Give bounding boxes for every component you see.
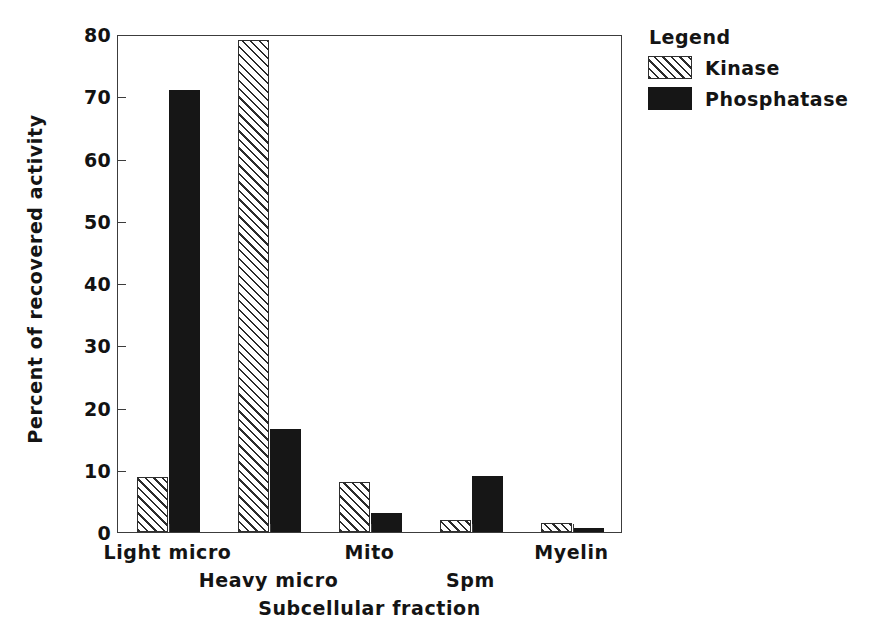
y-axis-tick-label: 40	[59, 273, 111, 295]
bar-mito-phosphatase	[371, 513, 402, 532]
y-axis-tick-mark	[117, 284, 126, 285]
y-axis-tick-label: 50	[59, 211, 111, 233]
x-axis-label-heavy-micro: Heavy micro	[199, 569, 339, 591]
bar-light-micro-phosphatase	[169, 90, 200, 532]
x-axis-label-light-micro: Light micro	[103, 541, 231, 563]
legend-title: Legend	[648, 26, 863, 48]
bar-spm-kinase	[440, 520, 471, 532]
bar-chart-figure: Percent of recovered activity 0102030405…	[0, 0, 873, 643]
y-axis-tick-label: 10	[59, 460, 111, 482]
bar-light-micro-kinase	[137, 477, 168, 532]
hatched-diagonal-swatch	[648, 56, 692, 79]
bar-spm-phosphatase	[472, 476, 503, 532]
solid-black-swatch	[648, 87, 692, 110]
y-axis-tick-mark	[117, 346, 126, 347]
legend-label: Kinase	[705, 57, 780, 79]
plot-area	[117, 35, 622, 533]
x-axis-tick-mark	[573, 524, 574, 533]
bar-myelin-phosphatase	[573, 528, 604, 532]
y-axis-tick-mark	[117, 471, 126, 472]
legend-entry-kinase: Kinase	[648, 55, 863, 80]
x-axis-tick-mark	[371, 524, 372, 533]
x-axis-tick-mark	[270, 524, 271, 533]
x-axis-label-mito: Mito	[345, 541, 395, 563]
x-axis-label-myelin: Myelin	[534, 541, 608, 563]
bar-heavy-micro-kinase	[238, 40, 269, 532]
legend-entry-phosphatase: Phosphatase	[648, 86, 863, 111]
y-axis-tick-label: 70	[59, 86, 111, 108]
x-axis-label-spm: Spm	[446, 569, 495, 591]
y-axis-tick-mark	[117, 97, 126, 98]
y-axis-tick-label: 30	[59, 335, 111, 357]
bar-heavy-micro-phosphatase	[270, 429, 301, 532]
x-axis-tick-mark	[472, 524, 473, 533]
y-axis-tick-mark	[117, 222, 126, 223]
bar-myelin-kinase	[541, 523, 572, 532]
bar-mito-kinase	[339, 482, 370, 532]
y-axis-title: Percent of recovered activity	[24, 69, 46, 489]
y-axis-tick-mark	[117, 160, 126, 161]
y-axis-tick-label: 80	[59, 24, 111, 46]
y-axis-tick-label: 60	[59, 149, 111, 171]
legend-label: Phosphatase	[705, 88, 848, 110]
legend-entries: KinasePhosphatase	[648, 55, 863, 111]
x-axis-title: Subcellular fraction	[117, 597, 622, 619]
legend: Legend KinasePhosphatase	[648, 26, 863, 117]
y-axis-tick-mark	[117, 409, 126, 410]
y-axis-tick-label: 20	[59, 398, 111, 420]
x-axis-tick-mark	[169, 524, 170, 533]
